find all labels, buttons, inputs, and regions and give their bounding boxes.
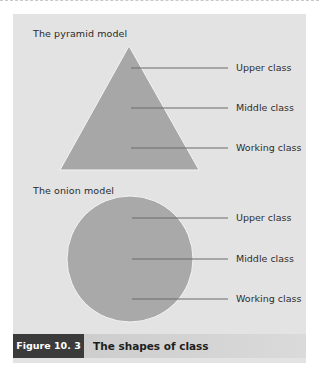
pyramid-label-middle: Middle class bbox=[236, 102, 294, 113]
figure-title: The shapes of class bbox=[93, 334, 209, 358]
onion-label-upper: Upper class bbox=[236, 212, 291, 223]
pyramid-label-working: Working class bbox=[236, 142, 301, 153]
pyramid-model-title: The pyramid model bbox=[33, 28, 127, 39]
pyramid-label-upper: Upper class bbox=[236, 62, 291, 73]
onion-label-middle: Middle class bbox=[236, 253, 294, 264]
figure-caption: Figure 10. 3 The shapes of class bbox=[13, 334, 306, 358]
onion-model-title: The onion model bbox=[33, 185, 114, 196]
figure-number-badge: Figure 10. 3 bbox=[13, 334, 84, 358]
onion-label-working: Working class bbox=[236, 293, 301, 304]
